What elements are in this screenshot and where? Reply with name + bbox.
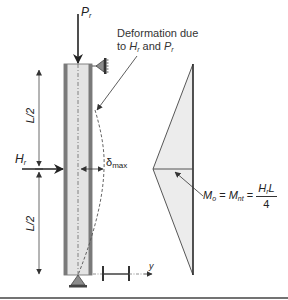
eq-equals-1: = [216, 189, 229, 201]
lateral-load-label: Hr [15, 153, 26, 166]
lateral-load-subscript: r [24, 159, 26, 166]
eq-numerator: HrL [256, 183, 276, 197]
length-dimension [35, 70, 43, 274]
axial-load-symbol: P [81, 5, 89, 19]
axial-load-subscript: r [89, 12, 91, 19]
pin-support-icon [69, 275, 87, 288]
column [64, 64, 92, 275]
text-to: to [117, 40, 129, 52]
deflection-subscript: max [112, 161, 127, 170]
beam-column-diagram: Pr Deformation due to Hr and Pr L/2 L/2 … [0, 0, 288, 300]
eq-mid: M [229, 189, 238, 201]
text-and: and [140, 40, 164, 52]
eq-equals-2: = [244, 189, 257, 201]
eq-denominator: 4 [256, 197, 276, 210]
text-H: H [129, 40, 137, 52]
eq-num-L: L [268, 182, 274, 194]
deflection-label: δmax [106, 157, 127, 170]
lateral-load-symbol: H [15, 152, 24, 166]
axial-load-label: Pr [81, 6, 91, 19]
half-length-label-top: L/2 [25, 108, 36, 123]
axis-label-y: y [149, 262, 154, 271]
moment-diagram [153, 64, 193, 275]
pin-support-icon [92, 58, 109, 74]
text-P-sub: r [171, 46, 173, 53]
eq-fraction: HrL 4 [256, 183, 276, 210]
half-length-label-bottom: L/2 [25, 216, 36, 231]
i-beam-section-icon [93, 266, 152, 281]
eq-lhs: M [203, 189, 212, 201]
deformation-note-line2: to Hr and Pr [117, 40, 198, 56]
eq-num-H: H [258, 182, 266, 194]
moment-equation: Mo = Mnt = HrL 4 [203, 183, 277, 210]
deformation-note-line1: Deformation due [117, 27, 198, 40]
deformation-note: Deformation due to Hr and Pr [117, 27, 198, 56]
